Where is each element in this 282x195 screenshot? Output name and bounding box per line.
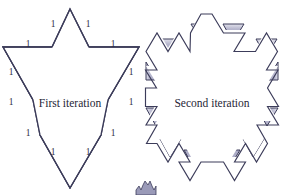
caption-first-iteration: First iteration <box>39 97 102 109</box>
edge-label-4: 1 <box>129 67 134 77</box>
edge-label-7: 1 <box>86 147 91 157</box>
caption-second-iteration: Second iteration <box>174 97 249 109</box>
edge-label-12: 1 <box>26 39 31 49</box>
edge-label-3: 1 <box>111 39 116 49</box>
edge-label-9: 1 <box>26 128 31 138</box>
koch-iteration-figure: First iteration 1 1 1 1 1 1 1 1 1 1 1 1 <box>0 0 282 195</box>
edge-label-2: 1 <box>86 19 91 29</box>
edge-label-6: 1 <box>111 128 116 138</box>
edge-label-11: 1 <box>9 67 14 77</box>
edge-label-10: 1 <box>9 97 14 107</box>
edge-label-1: 1 <box>51 19 56 29</box>
edge-label-8: 1 <box>51 147 56 157</box>
edge-label-5: 1 <box>129 97 134 107</box>
figure-canvas: First iteration 1 1 1 1 1 1 1 1 1 1 1 1 <box>0 0 282 195</box>
